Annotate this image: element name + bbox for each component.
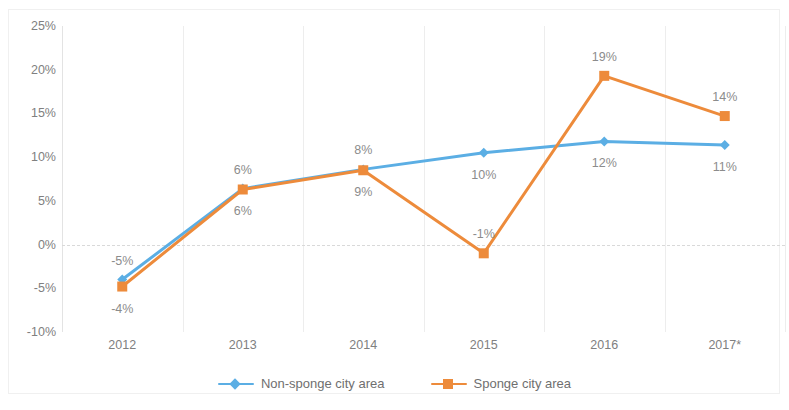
y-axis-tick-label: 20% [4, 63, 56, 76]
y-axis-tick-label: 15% [4, 107, 56, 120]
legend-item-non-sponge[interactable]: Non-sponge city area [218, 376, 385, 391]
series-layer [62, 26, 785, 332]
data-label: -5% [111, 254, 133, 267]
x-axis-tick-label: 2012 [108, 338, 136, 352]
legend-key-diamond-icon [218, 377, 254, 391]
y-axis-tick-label: -10% [4, 326, 56, 339]
x-axis-tick-label: 2016 [590, 338, 618, 352]
x-axis-tick-label: 2015 [470, 338, 498, 352]
data-point-marker-square[interactable] [720, 111, 730, 121]
x-axis: 201220132014201520162017* [62, 338, 785, 360]
data-point-marker-square[interactable] [238, 184, 248, 194]
plot-area: -5%6%8%10%12%11%-4%6%9%-1%19%14% [62, 26, 785, 332]
gridline-vertical [785, 26, 786, 332]
data-point-marker-square[interactable] [599, 71, 609, 81]
data-point-marker-diamond[interactable] [599, 136, 609, 146]
series-line-sponge [122, 76, 725, 287]
data-point-marker-diamond[interactable] [720, 140, 730, 150]
data-label: 14% [712, 91, 737, 104]
x-axis-tick-label: 2013 [229, 338, 257, 352]
data-label: 6% [234, 205, 252, 218]
data-point-marker-square[interactable] [358, 165, 368, 175]
legend-label: Non-sponge city area [261, 376, 385, 391]
data-label: 12% [592, 157, 617, 170]
data-label: 6% [234, 163, 252, 176]
data-label: 9% [354, 186, 372, 199]
x-axis-tick-label: 2014 [349, 338, 377, 352]
x-axis-tick-label: 2017* [708, 338, 741, 352]
data-label: 19% [592, 51, 617, 64]
y-axis-tick-label: -5% [4, 282, 56, 295]
legend-key-square-icon [431, 377, 467, 391]
legend-item-sponge[interactable]: Sponge city area [431, 376, 572, 391]
legend-label: Sponge city area [474, 376, 572, 391]
data-point-marker-square[interactable] [479, 248, 489, 258]
data-label: 8% [354, 144, 372, 157]
y-axis-tick-label: 5% [4, 195, 56, 208]
y-axis: 25%20%15%10%5%0%-5%-10% [0, 26, 56, 332]
y-axis-tick-label: 25% [4, 20, 56, 33]
data-point-marker-square[interactable] [117, 282, 127, 292]
chart-container: 25%20%15%10%5%0%-5%-10% -5%6%8%10%12%11%… [0, 0, 789, 410]
data-label: 10% [471, 169, 496, 182]
y-axis-tick-label: 0% [4, 238, 56, 251]
data-point-marker-diamond[interactable] [479, 148, 489, 158]
data-label: -1% [473, 228, 495, 241]
data-label: -4% [111, 302, 133, 315]
data-label: 11% [713, 161, 737, 174]
chart-legend: Non-sponge city areaSponge city area [0, 376, 789, 391]
y-axis-tick-label: 10% [4, 151, 56, 164]
